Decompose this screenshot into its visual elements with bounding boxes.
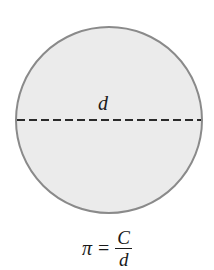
formula-fraction: C d	[115, 228, 132, 269]
diameter-label: d	[98, 92, 108, 115]
formula-equals: =	[98, 237, 109, 260]
pi-formula: π = C d	[0, 228, 214, 269]
formula-denominator: d	[119, 249, 129, 269]
formula-pi: π	[82, 237, 92, 260]
formula-numerator: C	[115, 228, 132, 249]
